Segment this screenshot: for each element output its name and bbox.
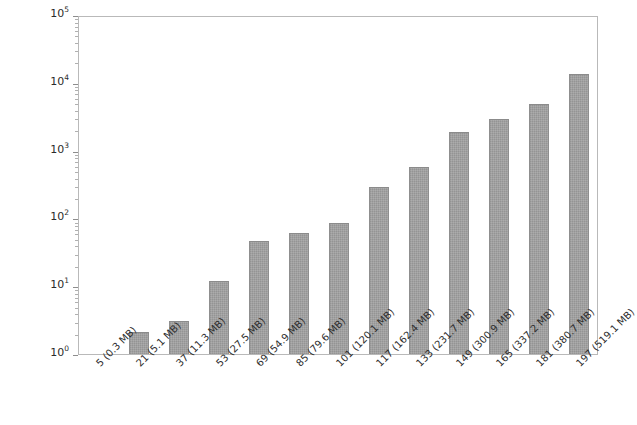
- y-axis-tick-label: 103: [50, 144, 69, 155]
- bar: [329, 223, 350, 354]
- bar: [409, 167, 430, 354]
- y-axis-tick-label: 100: [50, 347, 69, 358]
- bar: [209, 281, 230, 354]
- y-axis-tick-label: 102: [50, 211, 69, 222]
- y-axis: 100101102103104105: [0, 0, 78, 425]
- bar: [129, 332, 150, 354]
- bar: [289, 233, 310, 354]
- bar: [569, 74, 590, 354]
- bar: [449, 132, 470, 354]
- bar: [489, 119, 510, 354]
- y-axis-tick-label: 104: [50, 76, 69, 87]
- y-axis-tick-label: 101: [50, 279, 69, 290]
- plot-area: [78, 16, 598, 355]
- bar: [529, 104, 550, 354]
- y-axis-tick-mark: [73, 355, 78, 356]
- bar: [169, 321, 190, 354]
- y-axis-tick-label: 105: [50, 8, 69, 19]
- bar: [249, 241, 270, 354]
- bar: [369, 187, 390, 354]
- bar-series: [79, 17, 597, 354]
